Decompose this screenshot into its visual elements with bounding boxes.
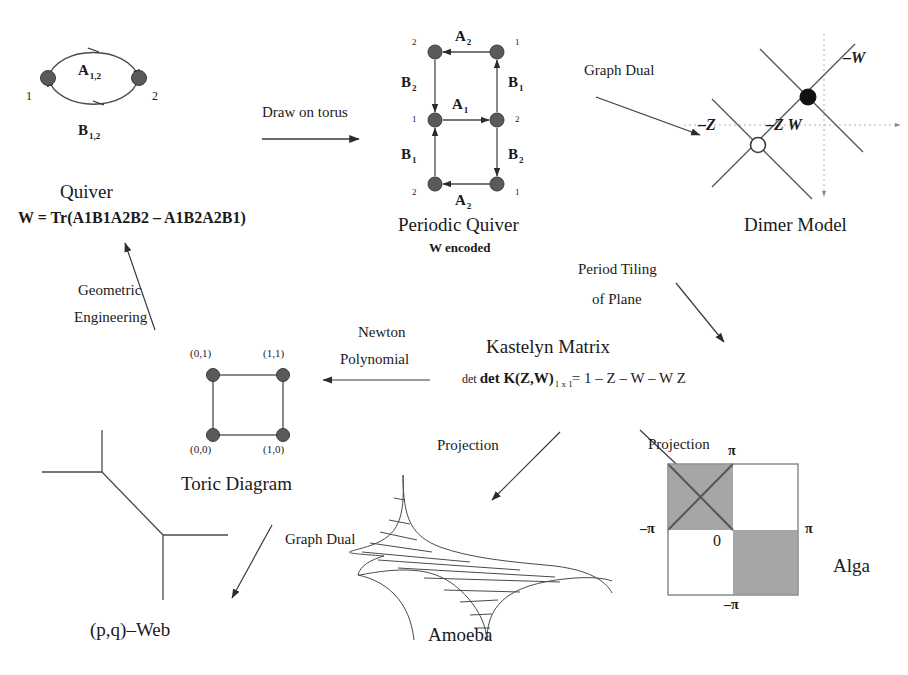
quiver-node-label-1: 1: [26, 90, 32, 102]
quiver-edge-B-letter: B: [78, 122, 88, 138]
arrow-graph-dual-top: [596, 97, 700, 135]
pq-edge-B2-right-letter: B: [508, 146, 518, 162]
amoeba-hatch-9: [460, 600, 498, 602]
pq-edge-B2-left-sub: 2: [412, 83, 417, 93]
pq-node-tr: [490, 45, 504, 59]
pq-node-label-tr: 1: [515, 38, 520, 47]
kastelyn-title: Kastelyn Matrix: [486, 337, 610, 356]
dimer-title: Dimer Model: [744, 215, 847, 234]
pq-edge-A2-bottom-sub: 2: [467, 201, 472, 211]
periodic-quiver-subtitle: W encoded: [429, 241, 491, 254]
arrow-label-projection-alga: Projection: [648, 437, 710, 452]
pq-node-label-ml: 1: [412, 115, 417, 124]
kastelyn-determinant: det det K(Z,W)1 x 1= 1 – Z – W – W Z: [462, 370, 686, 386]
quiver-node-1: [41, 71, 56, 86]
arrow-label-period-tiling-1: Period Tiling: [578, 262, 657, 277]
pq-edge-A1-mid-letter: A: [452, 96, 463, 112]
pq-edge-A1-mid-sub: 1: [464, 105, 469, 115]
quiver-edge-B-subscript: 1,2: [89, 131, 100, 141]
kastelyn-det-prefix: det K(Z,W): [480, 370, 554, 386]
dimer-white-node: [751, 138, 766, 153]
arrow-label-newton-2: Polynomial: [340, 352, 409, 367]
periodic-quiver-graph: [435, 52, 497, 184]
amoeba-outline-right: [403, 475, 612, 593]
toric-label-01: (0,1): [190, 348, 211, 359]
arrow-period-tiling: [676, 283, 724, 342]
arrow-label-newton-1: Newton: [358, 325, 406, 340]
pq-edge-B1-left-letter: B: [401, 146, 411, 162]
quiver-title: Quiver: [60, 182, 113, 201]
toric-point-00: [207, 429, 220, 442]
alga-shape: [668, 464, 798, 595]
arrow-label-graph-dual-top: Graph Dual: [584, 63, 654, 78]
pq-web-graph: [42, 430, 228, 600]
pq-edge-label-B1-left: B1: [401, 146, 416, 162]
quiver-edge-label-B: B1,2: [78, 122, 99, 138]
alga-axis-label-top: π: [728, 444, 736, 458]
alga-axis-label-bottom: –π: [724, 598, 739, 612]
pq-edge-label-A1-mid: A1: [452, 96, 467, 112]
pq-edge-label-B2-left: B2: [401, 74, 416, 90]
pq-node-tl: [428, 45, 442, 59]
pq-edge-B1-right-letter: B: [508, 74, 518, 90]
toric-label-00: (0,0): [190, 444, 211, 455]
quiver-edge-A-subscript: 1,2: [90, 71, 101, 81]
pq-edge-label-A2-bottom: A2: [455, 192, 470, 208]
arrow-label-geometric-engineering-1: Geometric: [78, 283, 141, 298]
quiver-edge-B: [48, 78, 139, 104]
amoeba-hatch-10: [470, 614, 492, 615]
toric-point-11: [277, 369, 290, 382]
toric-label-10: (1,0): [263, 444, 284, 455]
pq-node-label-mr: 2: [515, 115, 520, 124]
amoeba-hatch-3: [370, 543, 432, 552]
pq-edge-label-B1-right: B1: [508, 74, 523, 90]
kastelyn-det-prefix-det: det: [462, 372, 480, 386]
pq-edge-label-A2-top: A2: [455, 28, 470, 44]
pq-edge-A2-top-letter: A: [455, 28, 466, 44]
alga-quadrant-lower-right: [733, 530, 798, 595]
pq-node-label-br: 1: [515, 188, 520, 197]
pq-web-title: (p,q)–Web: [90, 620, 170, 639]
pq-edge-A2-bottom-letter: A: [455, 192, 466, 208]
arrow-label-period-tiling-2: of Plane: [592, 292, 642, 307]
amoeba-hatch-6: [398, 568, 555, 577]
kastelyn-det-subscript: 1 x 1: [555, 379, 573, 389]
amoeba-outline-lower-left: [358, 575, 414, 640]
pq-edge-B1-right-sub: 1: [519, 83, 524, 93]
periodic-quiver-title: Periodic Quiver: [398, 215, 519, 234]
quiver-node-label-2: 2: [152, 90, 158, 102]
arrow-label-draw-on-torus: Draw on torus: [262, 105, 348, 120]
alga-axis-label-right: π: [805, 522, 813, 536]
periodic-quiver-nodes: [428, 45, 504, 191]
pq-node-mr: [490, 113, 504, 127]
pq-node-label-tl: 2: [412, 38, 417, 47]
quiver-arrow-tick-A: [88, 48, 99, 52]
pqweb-leg-diagonal: [102, 472, 163, 535]
amoeba-hatch-2: [380, 532, 417, 540]
alga-origin-label: 0: [713, 533, 721, 549]
alga-axis-label-left: –π: [640, 522, 655, 536]
pq-node-label-bl: 2: [412, 188, 417, 197]
amoeba-hatch-7: [424, 578, 560, 582]
toric-label-11: (1,1): [263, 348, 284, 359]
pq-edge-label-B2-right: B2: [508, 146, 523, 162]
amoeba-shape: [349, 475, 612, 640]
toric-title: Toric Diagram: [181, 474, 292, 493]
quiver-node-2: [132, 71, 147, 86]
pq-edge-B2-right-sub: 2: [519, 155, 524, 165]
toric-diagram-graph: [207, 369, 290, 442]
quiver-superpotential: W = Tr(A1B1A2B2 – A1B2A2B1): [18, 210, 246, 226]
pq-edge-A2-top-sub: 2: [467, 37, 472, 47]
pq-edge-B1-left-sub: 1: [412, 155, 417, 165]
arrow-projection-amoeba: [492, 432, 560, 500]
dimer-label-minus-zw: –Z W: [766, 117, 802, 133]
dimer-label-minus-z: –Z: [698, 117, 716, 133]
figure-canvas: 1 2 A1,2 B1,2 Quiver W = Tr(A1B1A2B2 – A…: [0, 0, 908, 675]
arrow-label-geometric-engineering-2: Engineering: [74, 310, 147, 325]
pq-node-ml: [428, 113, 442, 127]
amoeba-outline-lower: [487, 578, 612, 640]
amoeba-title: Amoeba: [428, 625, 492, 644]
pq-node-bl: [428, 177, 442, 191]
arrow-label-projection-amoeba: Projection: [437, 438, 499, 453]
quiver-edge-label-A: A1,2: [78, 62, 100, 78]
